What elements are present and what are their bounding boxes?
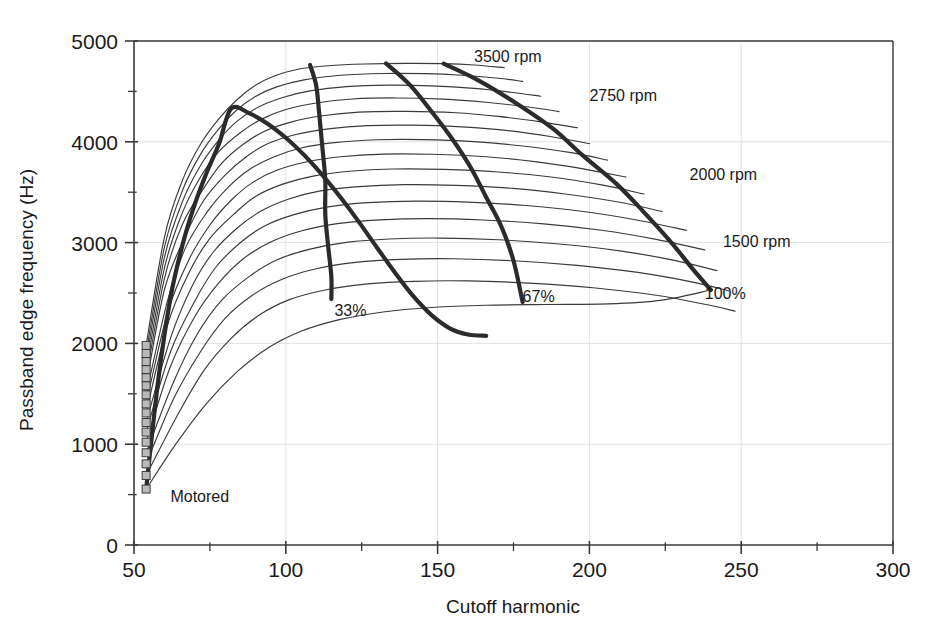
curve-label: 2750 rpm <box>589 87 657 104</box>
data-point-marker <box>142 449 150 457</box>
y-tick-label: 5000 <box>71 30 118 53</box>
x-tick-label: 100 <box>268 558 303 581</box>
data-point-marker <box>142 349 150 357</box>
y-tick-label: 2000 <box>71 332 118 355</box>
curve-label: 1500 rpm <box>723 233 791 250</box>
chart-background <box>0 0 943 635</box>
x-tick-label: 200 <box>572 558 607 581</box>
data-point-marker <box>142 391 150 399</box>
curve-label: 67% <box>523 288 555 305</box>
data-point-marker <box>142 485 150 493</box>
x-axis-title: Cutoff harmonic <box>446 596 580 617</box>
x-tick-label: 150 <box>420 558 455 581</box>
curve-label: 2000 rpm <box>690 166 758 183</box>
curve-label: 100% <box>705 285 746 302</box>
data-point-marker <box>142 419 150 427</box>
data-point-marker <box>142 341 150 349</box>
x-tick-label: 50 <box>122 558 145 581</box>
data-point-marker <box>142 428 150 436</box>
data-point-marker <box>142 460 150 468</box>
x-tick-label: 250 <box>724 558 759 581</box>
passband-edge-frequency-chart: 01000200030004000500050100150200250300 3… <box>0 0 943 635</box>
curve-label: Motored <box>170 488 229 505</box>
y-tick-label: 3000 <box>71 232 118 255</box>
y-axis-title: Passband edge frequency (Hz) <box>16 169 37 431</box>
y-tick-label: 0 <box>106 534 118 557</box>
data-point-marker <box>142 471 150 479</box>
data-point-marker <box>142 366 150 374</box>
data-point-marker <box>142 358 150 366</box>
data-point-marker <box>142 374 150 382</box>
curve-label: 3500 rpm <box>474 48 542 65</box>
y-tick-label: 1000 <box>71 433 118 456</box>
y-tick-label: 4000 <box>71 131 118 154</box>
x-tick-label: 300 <box>875 558 910 581</box>
data-point-marker <box>142 400 150 408</box>
data-point-marker <box>142 409 150 417</box>
data-point-marker <box>142 382 150 390</box>
data-point-marker <box>142 438 150 446</box>
curve-label: 33% <box>334 302 366 319</box>
chart-root: 01000200030004000500050100150200250300 3… <box>0 0 943 635</box>
